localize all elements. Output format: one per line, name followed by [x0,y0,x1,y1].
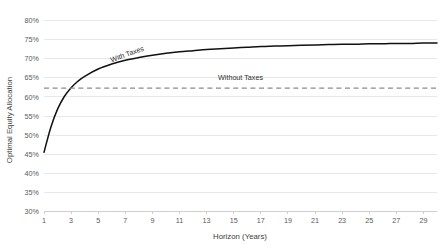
x-axis-tick-label: 29 [419,216,427,225]
y-axis-tick-label: 80% [25,16,40,25]
series-annotation-label: With Taxes [109,44,145,65]
series-annotations-group: With TaxesWithout Taxes [109,44,263,82]
x-axis-tick-label: 3 [69,216,73,225]
series-line-with-taxes [44,43,437,152]
data-series-group [44,43,437,152]
y-axis-tick-label: 35% [25,188,40,197]
y-axis-tick-label: 55% [25,112,40,121]
x-axis-title: Horizon (Years) [213,232,267,241]
axes-group [44,212,437,215]
series-annotation-label: Without Taxes [218,73,263,82]
y-axis-tick-label: 45% [25,150,40,159]
x-axis-tick-label: 23 [338,216,346,225]
y-axis-tick-label: 65% [25,73,40,82]
x-axis-tick-label: 17 [257,216,265,225]
x-axis-tick-label: 1 [42,216,46,225]
x-axis-tick-label: 9 [150,216,154,225]
x-axis-tick-label: 15 [230,216,238,225]
y-axis-tick-label: 40% [25,169,40,178]
x-axis-tick-label: 7 [123,216,127,225]
y-axis-tick-label: 70% [25,54,40,63]
x-axis-tick-label: 19 [284,216,292,225]
x-axis-tick-label: 25 [365,216,373,225]
y-axis-tick-labels: 30%35%40%45%50%55%60%65%70%75%80% [25,16,40,216]
y-axis-title: Optimal Equity Allocation [5,77,14,163]
equity-allocation-line-chart: 30%35%40%45%50%55%60%65%70%75%80% 135791… [0,0,447,246]
x-axis-tick-label: 13 [203,216,211,225]
x-axis-tick-label: 27 [392,216,400,225]
x-axis-tick-label: 5 [96,216,100,225]
x-axis-tick-label: 11 [176,216,183,225]
y-axis-tick-label: 50% [25,131,40,140]
x-axis-tick-label: 21 [311,216,319,225]
chart-container: 30%35%40%45%50%55%60%65%70%75%80% 135791… [0,0,447,246]
y-axis-tick-label: 75% [25,35,40,44]
y-axis-tick-label: 60% [25,93,40,102]
y-axis-tick-label: 30% [25,207,40,216]
x-axis-tick-labels: 1357911131517192123252729 [42,216,427,225]
gridlines-group [44,21,437,193]
